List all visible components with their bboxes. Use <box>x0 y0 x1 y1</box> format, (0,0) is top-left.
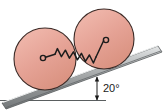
angle-label: 20° <box>103 82 120 94</box>
physics-figure: 20° <box>0 0 164 111</box>
angle-arc <box>95 77 99 101</box>
figure-canvas: 20° <box>0 0 164 111</box>
angle-arrow-up-icon <box>95 77 99 82</box>
angle-arrow-down-icon <box>95 96 99 101</box>
